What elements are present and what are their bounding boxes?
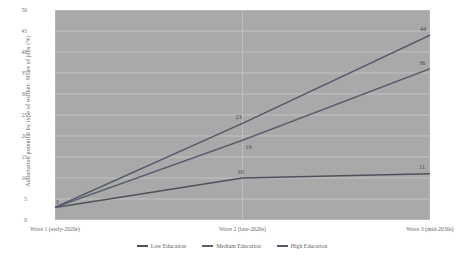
y-tick-label: 45 (3, 28, 27, 34)
data-point-label: 36 (419, 58, 425, 65)
data-point-label: 10 (237, 168, 243, 175)
legend-line-icon (137, 245, 148, 247)
data-point-label: 11 (419, 162, 425, 169)
legend-item-medium-education[interactable]: Medium Education (202, 243, 261, 249)
y-tick-label: 25 (3, 112, 27, 118)
y-tick-label: 40 (3, 49, 27, 55)
legend-label: Medium Education (216, 243, 261, 249)
legend-item-high-education[interactable]: High Education (277, 243, 328, 249)
plot-svg (55, 10, 430, 220)
y-tick-label: 10 (3, 175, 27, 181)
y-tick-label: 5 (3, 196, 27, 202)
y-tick-label: 35 (3, 70, 27, 76)
y-tick-label: 50 (3, 7, 27, 13)
data-point-label: 3 (55, 198, 58, 205)
legend-label: High Education (291, 243, 328, 249)
y-tick-label: 0 (3, 217, 27, 223)
legend-line-icon (277, 245, 288, 247)
y-tick-label: 30 (3, 91, 27, 97)
chart-figure: Automation potential by type of worker: … (0, 0, 464, 265)
chart-legend: Low EducationMedium EducationHigh Educat… (0, 243, 464, 249)
plot-area (55, 10, 430, 220)
data-point-label: 23 (235, 113, 241, 120)
data-point-label: 19 (245, 143, 251, 150)
legend-label: Low Education (151, 243, 187, 249)
y-tick-label: 15 (3, 154, 27, 160)
y-tick-label: 20 (3, 133, 27, 139)
y-axis-title: Automation potential by type of worker: … (25, 6, 31, 216)
x-tick-label: Wave 3 (mid-2030s) (406, 226, 454, 232)
legend-item-low-education[interactable]: Low Education (137, 243, 187, 249)
x-tick-label: Wave 1 (early-2020s) (30, 226, 80, 232)
x-tick-label: Wave 2 (late-2020s) (219, 226, 266, 232)
data-point-label: 44 (420, 25, 426, 32)
legend-line-icon (202, 245, 213, 247)
